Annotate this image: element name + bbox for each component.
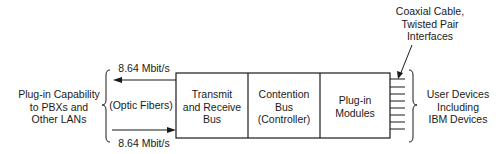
interface-stubs — [390, 79, 405, 129]
arrowhead-right-icon — [167, 127, 176, 133]
bottom-rate-label: 8.64 Mbit/s — [114, 137, 174, 150]
box-transmit-receive: Transmit and Receive Bus — [176, 88, 248, 126]
box-contention-bus: Contention Bus (Controller) — [248, 88, 320, 126]
right-label: User Devices Including IBM Devices — [418, 88, 498, 126]
top-rate-label: 8.64 Mbit/s — [114, 62, 174, 75]
left-label: Plug-in Capability to PBXs and Other LAN… — [14, 88, 104, 126]
medium-label: (Optic Fibers) — [106, 99, 176, 112]
pointer-arrowhead-icon — [397, 71, 403, 79]
arrowhead-left-icon — [113, 77, 122, 83]
right-brace-icon — [409, 70, 417, 142]
box-plugin-modules: Plug-in Modules — [320, 94, 390, 119]
interface-label: Coaxial Cable, Twisted Pair Interfaces — [370, 5, 490, 43]
